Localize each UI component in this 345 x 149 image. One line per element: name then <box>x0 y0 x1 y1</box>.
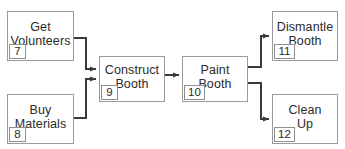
node-number-tag: 9 <box>101 85 118 100</box>
edge-materials-to-construct <box>74 79 96 118</box>
node-number-tag: 12 <box>274 127 295 142</box>
node-number-tag: 11 <box>274 44 295 59</box>
node-construct-booth[interactable]: Construct Booth 9 <box>99 56 165 102</box>
node-number-tag: 10 <box>184 85 205 100</box>
edge-paint-to-dismantle <box>248 36 269 67</box>
node-paint-booth[interactable]: Paint Booth 10 <box>182 56 248 102</box>
edge-volunteers-to-construct <box>74 38 96 69</box>
node-number-tag: 8 <box>9 127 26 142</box>
flowchart-canvas: Get Volunteers 7 Buy Materials 8 Constru… <box>0 0 345 149</box>
edge-paint-to-cleanup <box>248 83 269 119</box>
node-buy-materials[interactable]: Buy Materials 8 <box>7 94 74 144</box>
node-get-volunteers[interactable]: Get Volunteers 7 <box>7 11 74 61</box>
node-clean-up[interactable]: Clean Up 12 <box>272 94 338 144</box>
node-dismantle-booth[interactable]: Dismantle Booth 11 <box>272 11 338 61</box>
node-number-tag: 7 <box>9 44 26 59</box>
